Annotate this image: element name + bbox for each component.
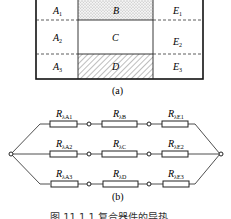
label-e2: E2 xyxy=(172,36,182,48)
resistor-e3 xyxy=(163,181,189,187)
label-r-e3: RλE3 xyxy=(167,168,184,180)
node-r2-1 xyxy=(87,152,91,156)
resistor-c xyxy=(102,151,137,157)
label-r-e1: RλE1 xyxy=(167,108,184,120)
caption-a: (a) xyxy=(112,85,123,97)
node-r2-2 xyxy=(147,152,151,156)
resistor-e2 xyxy=(162,151,188,157)
figure-a-composite-block: A1 A2 A3 B C D E1 E2 E3 (a) xyxy=(36,0,203,97)
node-r1-1 xyxy=(87,122,91,126)
resistor-b xyxy=(102,121,137,127)
node-r1-2 xyxy=(147,122,151,126)
label-r-a3: RλA3 xyxy=(55,168,72,180)
figure-caption: 图 11.1.1 复合器件的导热 xyxy=(50,211,168,219)
composite-thermal-diagram: A1 A2 A3 B C D E1 E2 E3 (a) xyxy=(0,0,231,219)
label-a2: A2 xyxy=(52,32,62,44)
label-a3: A3 xyxy=(52,61,62,73)
resistor-d xyxy=(103,181,138,187)
label-b: B xyxy=(113,5,119,16)
resistor-a1 xyxy=(50,121,77,127)
label-r-a2: RλA2 xyxy=(55,138,72,150)
resistor-e1 xyxy=(162,121,188,127)
resistor-a3 xyxy=(51,181,78,187)
label-d: D xyxy=(111,61,120,72)
node-right-terminal xyxy=(219,152,223,156)
node-left-terminal xyxy=(9,152,13,156)
node-r3-1 xyxy=(87,182,91,186)
resistor-labels: RλA1 RλB RλE1 RλA2 RλC RλE2 RλA3 RλD RλE… xyxy=(55,108,184,180)
label-r-e2: RλE2 xyxy=(167,138,184,150)
label-e1: E1 xyxy=(172,5,182,17)
label-a1: A1 xyxy=(52,5,62,17)
label-r-a1: RλA1 xyxy=(55,108,72,120)
resistor-a2 xyxy=(50,151,77,157)
caption-b: (b) xyxy=(112,191,124,203)
label-r-d: RλD xyxy=(112,168,127,180)
label-r-b: RλB xyxy=(112,108,126,120)
label-e3: E3 xyxy=(172,61,182,73)
node-r3-2 xyxy=(147,182,151,186)
label-c: C xyxy=(112,32,119,43)
label-r-c: RλC xyxy=(112,138,126,150)
